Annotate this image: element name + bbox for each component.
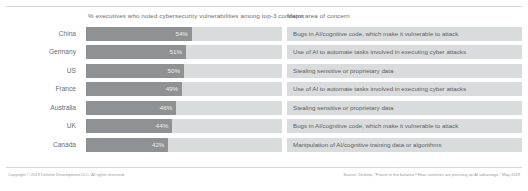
bar-track: 54% (86, 27, 282, 41)
bar-value-label: 46% (160, 101, 172, 115)
chart-row: US50%Stealing sensitive or proprietary d… (0, 62, 528, 81)
concern-cell: Bugs in AI/cognitive code, which make it… (287, 27, 522, 41)
chart-row: Canada42%Manipulation of AI/cognitive tr… (0, 137, 528, 156)
bar-track: 49% (86, 82, 282, 96)
chart-row: China54%Bugs in AI/cognitive code, which… (0, 25, 528, 44)
chart-row-inner: Canada42%Manipulation of AI/cognitive tr… (0, 138, 528, 152)
concern-cell: Bugs in AI/cognitive code, which make it… (287, 119, 522, 133)
bar-value-label: 42% (152, 138, 164, 152)
bar-value-label: 50% (168, 64, 180, 78)
chart-row-inner: UK44%Bugs in AI/cognitive code, which ma… (0, 119, 528, 133)
concern-text: Manipulation of AI/cognitive training da… (293, 138, 442, 152)
category-label: US (0, 64, 76, 78)
category-label: Canada (0, 138, 76, 152)
chart-row-inner: Germany51%Use of AI to automate tasks in… (0, 45, 528, 59)
chart-row-inner: China54%Bugs in AI/cognitive code, which… (0, 27, 528, 41)
category-label: China (0, 27, 76, 41)
column-headers: % executives who noted cybersecurity vul… (0, 11, 528, 25)
chart-row: Germany51%Use of AI to automate tasks in… (0, 44, 528, 63)
chart-row: France49%Use of AI to automate tasks inv… (0, 81, 528, 100)
bar-value-label: 49% (166, 82, 178, 96)
concern-text: Use of AI to automate tasks involved in … (293, 45, 466, 59)
chart-row-inner: France49%Use of AI to automate tasks inv… (0, 82, 528, 96)
bar-value-label: 51% (170, 45, 182, 59)
concern-cell: Use of AI to automate tasks involved in … (287, 45, 522, 59)
copyright-text: Copyright © 2019 Deloitte Development LL… (8, 172, 125, 178)
chart-row-inner: Australia46%Stealing sensitive or propri… (0, 101, 528, 115)
concern-cell: Stealing sensitive or proprietary data (287, 64, 522, 78)
bottom-divider (6, 167, 522, 168)
concern-text: Use of AI to automate tasks involved in … (293, 82, 466, 96)
category-label: UK (0, 119, 76, 133)
category-label: France (0, 82, 76, 96)
bar-track: 50% (86, 64, 282, 78)
category-label: Australia (0, 101, 76, 115)
bar-value-label: 54% (175, 27, 187, 41)
chart-row-inner: US50%Stealing sensitive or proprietary d… (0, 64, 528, 78)
top-divider (6, 6, 522, 7)
chart-footer: Copyright © 2019 Deloitte Development LL… (0, 172, 528, 184)
category-label: Germany (0, 45, 76, 59)
concern-text: Bugs in AI/cognitive code, which make it… (293, 119, 458, 133)
bar-track: 42% (86, 138, 282, 152)
concern-text: Stealing sensitive or proprietary data (293, 64, 393, 78)
concern-text: Bugs in AI/cognitive code, which make it… (293, 27, 458, 41)
bar-track: 51% (86, 45, 282, 59)
bar-value-label: 44% (156, 119, 168, 133)
chart-rows: China54%Bugs in AI/cognitive code, which… (0, 25, 528, 155)
cybersecurity-concerns-chart: % executives who noted cybersecurity vul… (0, 0, 528, 191)
bar-track: 44% (86, 119, 282, 133)
concern-cell: Stealing sensitive or proprietary data (287, 101, 522, 115)
concern-text: Stealing sensitive or proprietary data (293, 101, 393, 115)
concern-cell: Manipulation of AI/cognitive training da… (287, 138, 522, 152)
column-header-percent: % executives who noted cybersecurity vul… (88, 11, 304, 20)
source-text: Source: Deloitte, “Future in the balance… (343, 172, 520, 178)
concern-cell: Use of AI to automate tasks involved in … (287, 82, 522, 96)
bar-track: 46% (86, 101, 282, 115)
column-header-concern: Major area of concern (287, 11, 350, 20)
chart-row: UK44%Bugs in AI/cognitive code, which ma… (0, 118, 528, 137)
chart-row: Australia46%Stealing sensitive or propri… (0, 99, 528, 118)
